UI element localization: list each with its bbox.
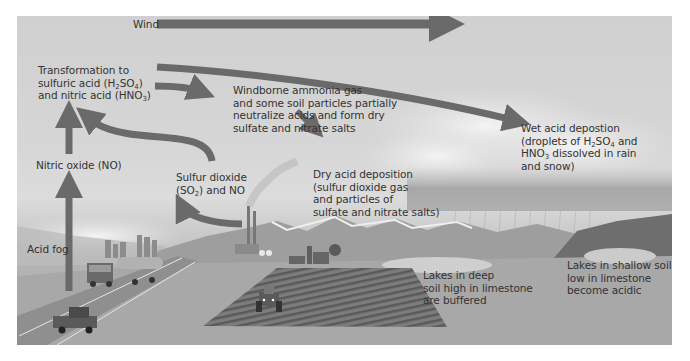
label-nitric-oxide: Nitric oxide (NO) <box>36 159 122 172</box>
label-acid-fog: Acid fog <box>27 243 69 256</box>
label-transformation: Transformation to sulfuric acid (H2SO4) … <box>38 64 151 102</box>
acid-deposition-diagram: Wind Transformation to sulfuric acid (H2… <box>17 16 672 345</box>
label-sulfur-dioxide: Sulfur dioxide (SO2) and NO <box>176 171 247 196</box>
label-wet-deposition: Wet acid depostion (droplets of H2SO4 an… <box>521 122 637 172</box>
label-dry-deposition: Dry acid deposition (sulfur dioxide gas … <box>313 168 439 218</box>
label-wind: Wind <box>133 18 159 31</box>
label-lakes-deep: Lakes in deep soil high in limestone are… <box>423 269 533 307</box>
so2-transform-arrow <box>87 116 212 161</box>
stack-emission-arrow <box>182 206 242 224</box>
label-lakes-shallow: Lakes in shallow soil low in limestone b… <box>567 259 672 297</box>
label-windborne-ammonia: Windborne ammonia gas and some soil part… <box>233 84 397 134</box>
ammonia-arrow <box>155 86 202 92</box>
